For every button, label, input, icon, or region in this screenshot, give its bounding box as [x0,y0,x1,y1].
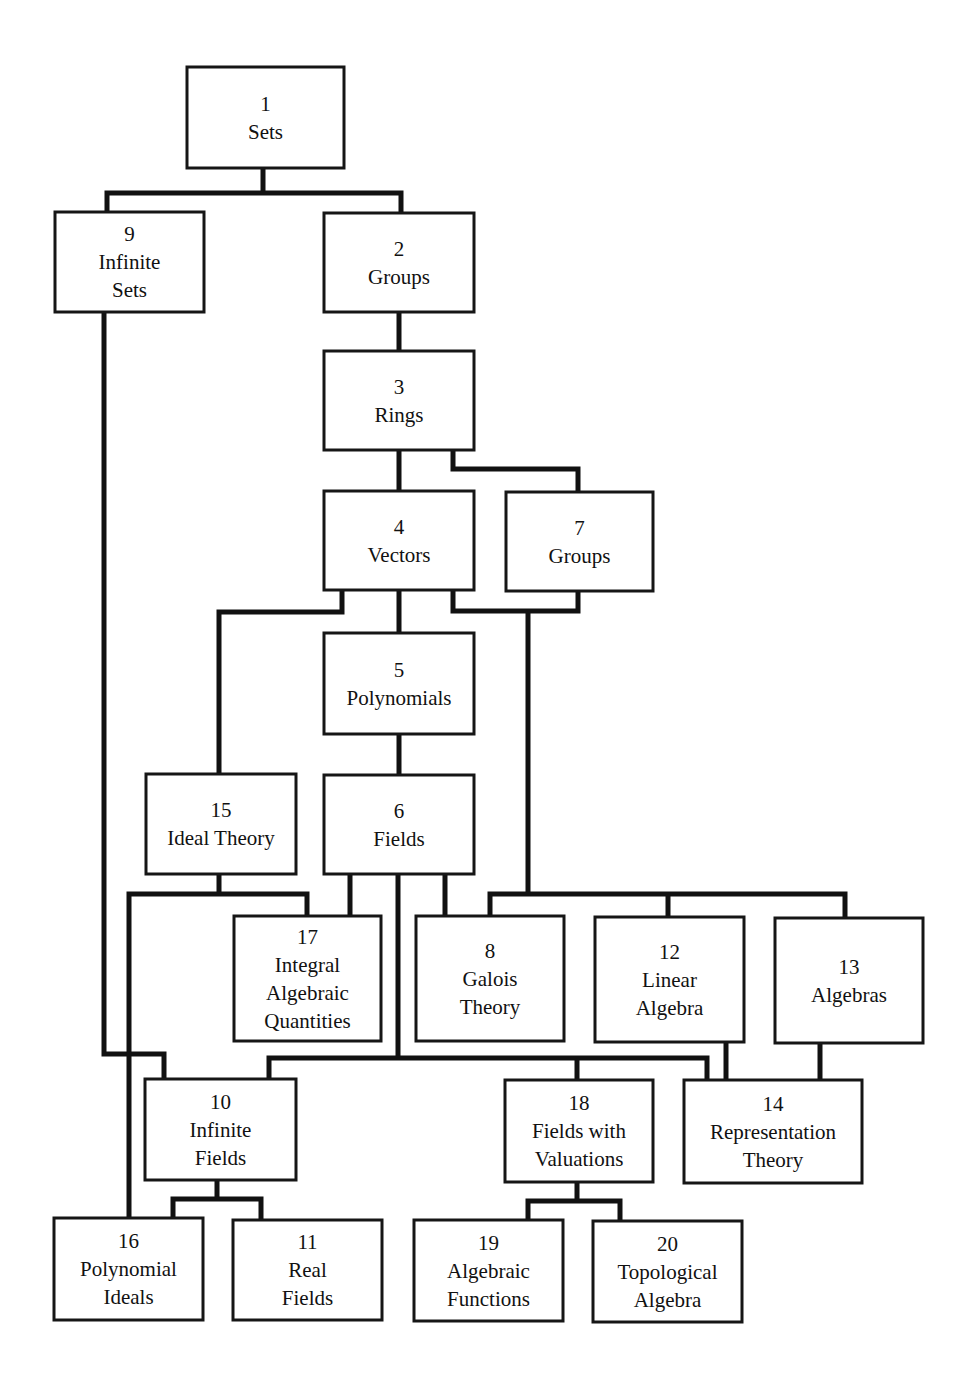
topic-label: Polynomials [346,686,451,710]
topic-number: 3 [394,375,405,399]
topic-box [324,633,474,734]
topic-number: 19 [478,1231,499,1255]
topic-node-2: 2Groups [324,213,474,312]
topic-node-7: 7Groups [506,492,653,591]
topic-node-9: 9InfiniteSets [55,212,204,312]
edge-3-to-4-7 [399,450,578,492]
topic-node-12: 12LinearAlgebra [595,917,744,1042]
topic-number: 1 [260,92,271,116]
topic-number: 18 [569,1091,590,1115]
topic-node-14: 14RepresentationTheory [684,1080,862,1183]
topic-number: 6 [394,799,405,823]
topic-node-15: 15Ideal Theory [146,774,296,874]
topic-label: Fields [195,1146,246,1170]
topic-box [146,774,296,874]
topic-label: Functions [447,1287,530,1311]
topic-label: Integral [275,953,340,977]
topic-label: Algebras [811,983,887,1007]
topic-label: Algebraic [447,1259,530,1283]
topic-node-13: 13Algebras [775,918,923,1043]
topic-number: 8 [485,939,496,963]
topic-number: 5 [394,658,405,682]
topic-number: 14 [763,1092,785,1116]
topic-number: 4 [394,515,405,539]
topic-label: Theory [743,1148,804,1172]
topic-number: 9 [124,222,135,246]
topic-node-11: 11RealFields [233,1220,382,1320]
topic-number: 15 [211,798,232,822]
topic-label: Galois [463,967,518,991]
topic-label: Linear [642,968,697,992]
topic-label: Representation [710,1120,836,1144]
topic-number: 11 [297,1230,317,1254]
edge-18-to-19-20 [528,1182,620,1221]
topic-number: 20 [657,1232,678,1256]
topic-box [775,918,923,1043]
topic-box [324,491,474,590]
topic-label: Quantities [264,1009,350,1033]
topic-node-4: 4Vectors [324,491,474,590]
topic-node-8: 8GaloisTheory [416,916,564,1041]
topic-label: Fields with [532,1119,626,1143]
edge-4-to-8-12-13 [453,590,845,918]
topic-label: Algebra [634,1288,702,1312]
topic-number: 13 [839,955,860,979]
topic-number: 12 [659,940,680,964]
topic-node-3: 3Rings [324,351,474,450]
edge-10-to-16-11 [173,1180,261,1220]
topic-label: Algebraic [266,981,349,1005]
topic-label: Rings [374,403,423,427]
topic-label: Sets [248,120,283,144]
topic-box [324,213,474,312]
topic-node-17: 17IntegralAlgebraicQuantities [234,916,381,1041]
topic-box [324,351,474,450]
topic-label: Fields [282,1286,333,1310]
topic-node-5: 5Polynomials [324,633,474,734]
topic-label: Infinite [190,1118,252,1142]
topic-node-6: 6Fields [324,775,474,874]
topic-node-20: 20TopologicalAlgebra [593,1221,742,1322]
topic-node-19: 19AlgebraicFunctions [414,1220,563,1321]
topic-box [187,67,344,168]
topic-label: Valuations [535,1147,624,1171]
topic-node-16: 16PolynomialIdeals [54,1218,203,1320]
subject-dependency-diagram: 1Sets9InfiniteSets2Groups3Rings4Vectors7… [0,0,971,1396]
topic-number: 17 [297,925,318,949]
topic-number: 10 [210,1090,231,1114]
topic-label: Polynomial [80,1257,177,1281]
edge-1-to-9-2 [107,168,401,213]
topic-label: Sets [112,278,147,302]
topic-label: Infinite [99,250,161,274]
topic-label: Theory [460,995,521,1019]
topic-label: Real [288,1258,327,1282]
topic-label: Fields [373,827,424,851]
topic-number: 16 [118,1229,139,1253]
topic-box [324,775,474,874]
topic-node-1: 1Sets [187,67,344,168]
topic-label: Groups [549,544,611,568]
topic-label: Topological [617,1260,717,1284]
topic-number: 2 [394,237,405,261]
topic-label: Algebra [636,996,704,1020]
edge-9-to-10 [104,312,164,1079]
topic-node-18: 18Fields withValuations [505,1080,653,1182]
topic-node-10: 10InfiniteFields [145,1079,296,1180]
topic-label: Groups [368,265,430,289]
topic-number: 7 [574,516,585,540]
topic-label: Ideals [103,1285,153,1309]
topic-label: Vectors [368,543,431,567]
topic-label: Ideal Theory [167,826,275,850]
topic-box [506,492,653,591]
topic-boxes: 1Sets9InfiniteSets2Groups3Rings4Vectors7… [54,67,923,1322]
